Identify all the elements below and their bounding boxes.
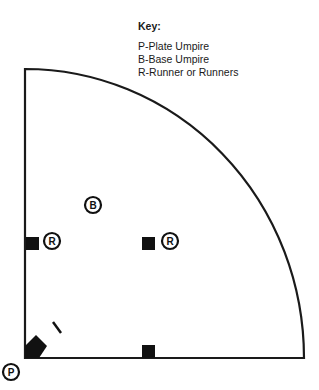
svg-text:R: R [48, 236, 56, 247]
plate-umpire-marker: P [3, 364, 19, 380]
svg-text:R: R [166, 236, 174, 247]
base-middle [142, 237, 155, 250]
base-umpire-marker: B [85, 197, 101, 213]
pitch-line-mark [53, 322, 61, 333]
field-outline [25, 69, 304, 358]
baseball-field-diagram: R R B P [0, 0, 319, 390]
svg-text:P: P [8, 367, 15, 378]
svg-text:B: B [89, 200, 96, 211]
base-first-left [26, 237, 39, 250]
home-plate [25, 335, 47, 358]
base-bottom [142, 345, 155, 358]
runner-marker-middle: R [162, 233, 178, 249]
runner-marker-left: R [44, 233, 60, 249]
